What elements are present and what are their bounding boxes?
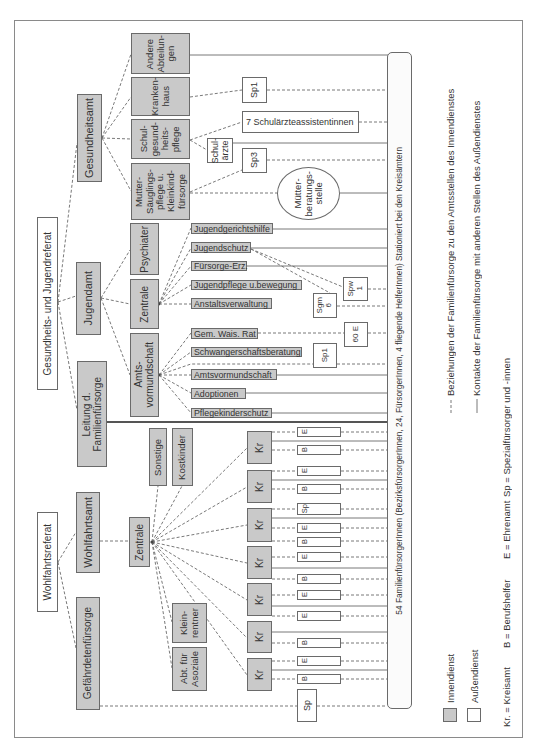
helper-label: E — [301, 613, 309, 618]
kreisamt-box: Kr — [247, 621, 272, 653]
asoziale-label: Abt. für Asoziale — [179, 651, 200, 687]
helper-label: B — [301, 576, 309, 581]
kostkinder-label: Kostkinder — [177, 435, 188, 480]
helper-box: B — [297, 537, 341, 547]
kreisamt-box: Kr — [247, 508, 272, 542]
pflegekinderschutz-box: Pflegekinderschutz — [191, 408, 272, 418]
spw-label: Spw 1 — [347, 281, 365, 297]
helper-label: E — [301, 525, 309, 530]
helper-label: E — [301, 592, 309, 597]
schulaerzteassistentinnen-box: 7 Schulärzteassistentinnen — [242, 111, 359, 133]
wohlfahrtsreferat-label: Wohlfahrtsreferat — [42, 524, 53, 601]
schwangerschaftsberatung-label: Schwangerschaftsberatung — [194, 347, 301, 357]
ehrenamt-60-label: 60 E — [352, 326, 361, 342]
helper-label: E — [301, 468, 309, 473]
leitung-familienfuersorge-box: Leitung d. Familienfürsorge — [77, 361, 107, 467]
schulaerzte-box: Schul- ärzte — [207, 138, 233, 163]
helper-box: E — [297, 427, 341, 437]
kreisamt-box: Kr — [247, 470, 272, 503]
kostkinder-box: Kostkinder — [172, 428, 193, 486]
kreisamt-box: Kr — [247, 431, 272, 464]
fuersorge-erz-label: Fürsorge-Erz. — [194, 261, 248, 271]
gesundheitsamt-links — [102, 54, 131, 191]
schwangerschaftsberatung-box: Schwangerschaftsberatung — [191, 347, 302, 357]
wohlfahrtsamt-zentrale-box: Zentrale — [129, 517, 150, 567]
spw-box: Spw 1 — [343, 277, 368, 301]
gesundheits-jugendreferat-label: Gesundheits- und Jugendreferat — [42, 232, 53, 375]
referat-wf-links — [58, 532, 76, 648]
jugendamt-label: Jugendamt — [82, 271, 94, 325]
sp-gefaehrdete-label: Sp — [302, 700, 312, 711]
ja-zentrale-links — [159, 228, 191, 304]
sp1-jugend-label: Sp1 — [321, 348, 330, 362]
jugendpflege-label: Jugendpflege u.bewegung — [194, 280, 297, 290]
legend-dashed-label: Beziehungen der Familienfürsorge zu den … — [444, 60, 458, 396]
wohlfahrtsamt-box: Wohlfahrtsamt — [76, 492, 100, 573]
sonstige-label: Sonstige — [153, 439, 164, 476]
abbrev-kreisamt: Kr. = Kreisamt — [500, 660, 514, 727]
sp1-gesundheit-box: Sp1 — [242, 77, 267, 103]
gesundheitsamt-label: Gesundheitsamt — [83, 98, 95, 178]
sp1-jugend-box: Sp1 — [313, 343, 337, 368]
kreisamt-label: Kr — [254, 595, 265, 605]
kreisamt-label: Kr — [254, 443, 265, 453]
hub-dot — [150, 540, 153, 543]
ehrenamt-60-box: 60 E — [344, 322, 368, 347]
gesundheitsamt-box: Gesundheitsamt — [77, 94, 102, 182]
leitung-familienfuersorge-label: Leitung d. Familienfürsorge — [81, 377, 103, 451]
kreisamt-label: Kr — [254, 670, 265, 680]
andere-abteilungen-box: Andere Abteilun- gen — [131, 33, 190, 74]
adoptionen-box: Adoptionen — [191, 388, 246, 399]
gem-wais-rat-label: Gem. Wais. Rat — [194, 329, 256, 339]
helper-box: B — [297, 674, 341, 684]
andere-abteilungen-label: Andere Abteilun- gen — [145, 35, 177, 73]
muetterberatungsstelle-label: Mütter- beratungs- stelle — [293, 171, 325, 216]
legend-solid-label: Kontakte der Familienfürsorge mit andere… — [470, 80, 484, 396]
kreisamt-label: Kr — [254, 482, 265, 492]
helper-label: B — [301, 486, 309, 491]
helper-box: B — [297, 574, 341, 584]
wohlfahrtsreferat-box: Wohlfahrtsreferat — [37, 512, 58, 612]
helper-box: B — [297, 638, 341, 648]
abbrev-spezialfuersorger: Sp = Spezialfürsorger und -innen — [500, 335, 514, 497]
aussendienst-swatch — [467, 708, 481, 722]
schulgesundheitspflege-box: Schul- gesund- heits- pflege — [131, 119, 190, 159]
org-chart-page: Gesundheits- und Jugendreferat Wohlfahrt… — [0, 0, 537, 754]
jugendamt-box: Jugendamt — [76, 262, 101, 335]
jugendamt-links — [101, 250, 130, 375]
wohlfahrtsamt-zentrale-label: Zentrale — [134, 524, 145, 561]
amtsvormundschaft-box: Amts- vormundschaft — [130, 333, 159, 417]
anstaltsverwaltung-box: Anstaltsverwaltung — [191, 298, 272, 309]
kreisamt-box: Kr — [247, 658, 272, 691]
mutter-saeuglingspflege-box: Mutter- Säuglings- pflege u. Kleinkind- … — [131, 163, 190, 220]
helper-label: E — [301, 554, 309, 559]
sonstige-box: Sonstige — [149, 428, 167, 486]
helper-label: B — [301, 676, 309, 681]
referat-gj-links — [58, 143, 77, 410]
gefaehrdetenfuersorge-label: Gefährdetenfürsorge — [82, 607, 93, 699]
amtsvormundschaft-label: Amts- vormundschaft — [133, 342, 155, 408]
psychiater-label: Psychiater — [139, 226, 150, 273]
pflegekinderschutz-label: Pflegekinderschutz — [194, 408, 268, 418]
gem-wais-rat-box: Gem. Wais. Rat — [191, 328, 258, 339]
psychiater-box: Psychiater — [130, 223, 159, 275]
kreisamt-label: Kr — [254, 632, 265, 642]
sp-gefaehrdete-box: Sp — [297, 689, 317, 722]
mutter-links — [190, 170, 277, 193]
helper-box: Sp — [297, 503, 341, 515]
amtsvormundschaft-stelle-box: Amtsvormundschaft — [191, 369, 277, 380]
helper-box: E — [297, 611, 341, 621]
jugendgerichtshilfe-box: Jugendgerichtshilfe — [191, 223, 273, 234]
sp3-box: Sp3 — [242, 148, 267, 173]
asoziale-box: Abt. für Asoziale — [172, 647, 207, 691]
jugendschutz-box: Jugendschutz — [191, 242, 251, 253]
amtsvormundschaft-stelle-label: Amtsvormundschaft — [194, 370, 272, 380]
fuersorge-erz-box: Fürsorge-Erz. — [191, 261, 247, 271]
jugendgerichtshilfe-label: Jugendgerichtshilfe — [194, 224, 270, 234]
helper-label: E — [301, 429, 309, 434]
aussendienst-legend-label: Außendienst — [468, 630, 482, 703]
helper-box: B — [297, 445, 341, 455]
helper-box: E — [297, 523, 341, 533]
anstaltsverwaltung-label: Anstaltsverwaltung — [194, 299, 268, 309]
kreisamt-box: Kr — [247, 583, 272, 616]
